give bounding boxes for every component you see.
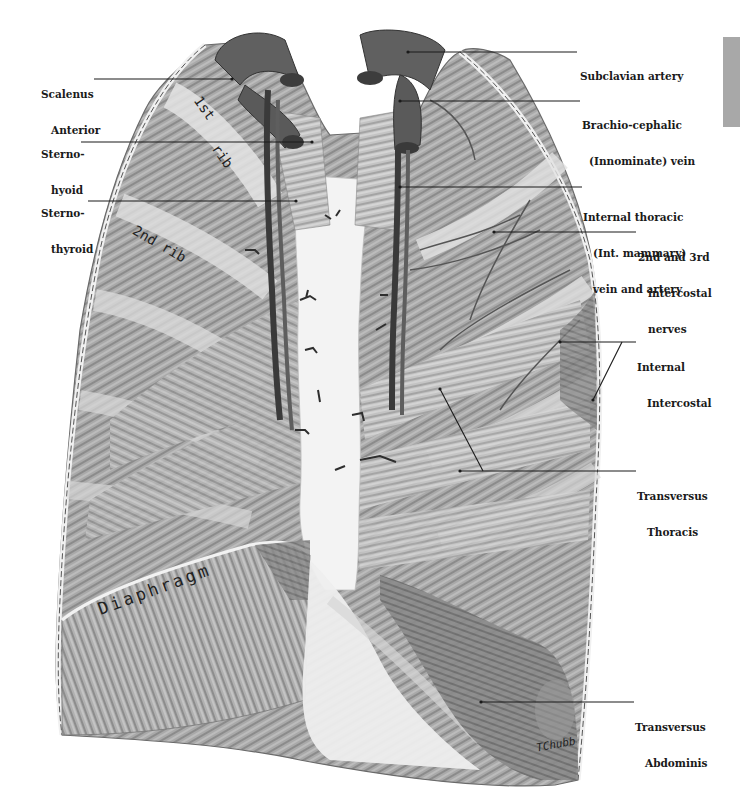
anatomy-figure: Scalenus Anterior Sterno- hyoid Sterno- … (0, 0, 740, 807)
label-transversus-abdominis: Transversus Abdominis (635, 697, 707, 793)
right-brachiocephalic-vein (394, 75, 422, 150)
label-sterno-thyroid: Sterno- thyroid (41, 183, 93, 279)
label-transversus-thoracis: Transversus Thoracis (637, 466, 708, 562)
page-edge-tab (723, 37, 740, 127)
label-internal-intercostal: Internal Intercostal (637, 337, 712, 433)
label-brachiocephalic-vein: Brachio-cephalic (Innominate) vein (582, 95, 695, 191)
